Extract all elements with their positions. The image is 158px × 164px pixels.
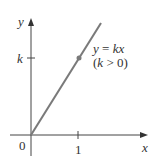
y-axis-label: y [16,14,24,29]
origin-label: 0 [19,138,26,153]
chart: y k 0 1 x y = kx (k > 0) [0,0,158,164]
x-tick-label-1: 1 [75,142,82,157]
y-axis-arrow-icon [28,18,34,26]
x-axis-label: x [141,140,148,155]
cond-rest: > 0) [103,55,128,70]
condition-label: (k > 0) [93,55,128,70]
eq-kx: kx [113,41,125,56]
point-1-k [77,56,82,61]
y-tick-label-k: k [17,51,23,66]
eq-equals: = [99,41,113,56]
equation-label: y = kx [91,41,124,56]
x-axis-arrow-icon [140,132,148,138]
line-y-equals-kx [31,23,101,135]
